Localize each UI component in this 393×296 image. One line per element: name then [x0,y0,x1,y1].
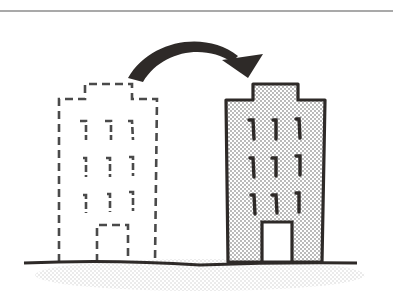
target-building-icon [226,84,325,262]
relocation-illustration [0,0,393,296]
source-building-icon [59,84,157,262]
move-arrow-icon [128,42,263,82]
